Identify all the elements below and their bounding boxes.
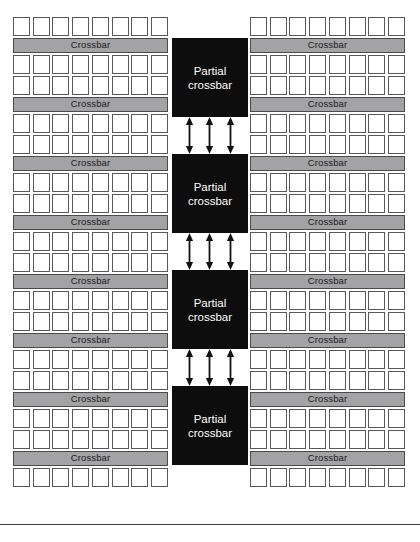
- processing-element[interactable]: [52, 232, 69, 251]
- processing-element[interactable]: [72, 291, 89, 310]
- processing-element[interactable]: [368, 468, 385, 487]
- processing-element[interactable]: [92, 430, 109, 449]
- processing-element[interactable]: [13, 194, 30, 213]
- processing-element[interactable]: [270, 312, 287, 331]
- processing-element[interactable]: [13, 114, 30, 133]
- processing-element[interactable]: [112, 468, 129, 487]
- processing-element[interactable]: [33, 76, 50, 95]
- processing-element[interactable]: [33, 232, 50, 251]
- processing-element[interactable]: [131, 409, 148, 428]
- processing-element[interactable]: [349, 291, 366, 310]
- processing-element[interactable]: [52, 55, 69, 74]
- processing-element[interactable]: [33, 194, 50, 213]
- processing-element[interactable]: [388, 194, 405, 213]
- processing-element[interactable]: [250, 253, 267, 272]
- crossbar-bar[interactable]: Crossbar: [250, 97, 405, 112]
- processing-element[interactable]: [112, 17, 129, 36]
- processing-element[interactable]: [151, 55, 168, 74]
- processing-element[interactable]: [13, 430, 30, 449]
- processing-element[interactable]: [52, 468, 69, 487]
- processing-element[interactable]: [72, 409, 89, 428]
- processing-element[interactable]: [388, 350, 405, 369]
- processing-element[interactable]: [131, 135, 148, 154]
- partial-crossbar-block[interactable]: Partialcrossbar: [172, 38, 248, 117]
- processing-element[interactable]: [131, 253, 148, 272]
- processing-element[interactable]: [151, 430, 168, 449]
- processing-element[interactable]: [309, 135, 326, 154]
- processing-element[interactable]: [151, 350, 168, 369]
- processing-element[interactable]: [72, 135, 89, 154]
- processing-element[interactable]: [13, 173, 30, 192]
- processing-element[interactable]: [33, 312, 50, 331]
- processing-element[interactable]: [309, 291, 326, 310]
- processing-element[interactable]: [112, 253, 129, 272]
- processing-element[interactable]: [289, 17, 306, 36]
- processing-element[interactable]: [13, 76, 30, 95]
- processing-element[interactable]: [329, 17, 346, 36]
- processing-element[interactable]: [289, 194, 306, 213]
- processing-element[interactable]: [112, 114, 129, 133]
- processing-element[interactable]: [309, 409, 326, 428]
- processing-element[interactable]: [112, 350, 129, 369]
- processing-element[interactable]: [92, 114, 109, 133]
- crossbar-bar[interactable]: Crossbar: [250, 392, 405, 407]
- processing-element[interactable]: [368, 173, 385, 192]
- processing-element[interactable]: [52, 409, 69, 428]
- processing-element[interactable]: [151, 291, 168, 310]
- processing-element[interactable]: [72, 312, 89, 331]
- processing-element[interactable]: [112, 409, 129, 428]
- processing-element[interactable]: [151, 409, 168, 428]
- processing-element[interactable]: [289, 135, 306, 154]
- processing-element[interactable]: [33, 371, 50, 390]
- processing-element[interactable]: [349, 350, 366, 369]
- processing-element[interactable]: [329, 350, 346, 369]
- processing-element[interactable]: [250, 114, 267, 133]
- processing-element[interactable]: [368, 430, 385, 449]
- processing-element[interactable]: [388, 312, 405, 331]
- processing-element[interactable]: [13, 409, 30, 428]
- processing-element[interactable]: [388, 291, 405, 310]
- processing-element[interactable]: [131, 17, 148, 36]
- processing-element[interactable]: [388, 114, 405, 133]
- processing-element[interactable]: [270, 232, 287, 251]
- processing-element[interactable]: [329, 468, 346, 487]
- processing-element[interactable]: [131, 312, 148, 331]
- processing-element[interactable]: [151, 253, 168, 272]
- processing-element[interactable]: [52, 312, 69, 331]
- processing-element[interactable]: [289, 291, 306, 310]
- processing-element[interactable]: [329, 371, 346, 390]
- processing-element[interactable]: [349, 114, 366, 133]
- processing-element[interactable]: [349, 17, 366, 36]
- processing-element[interactable]: [250, 17, 267, 36]
- processing-element[interactable]: [388, 232, 405, 251]
- processing-element[interactable]: [309, 371, 326, 390]
- processing-element[interactable]: [270, 114, 287, 133]
- processing-element[interactable]: [52, 350, 69, 369]
- processing-element[interactable]: [33, 17, 50, 36]
- processing-element[interactable]: [131, 114, 148, 133]
- processing-element[interactable]: [309, 253, 326, 272]
- processing-element[interactable]: [52, 135, 69, 154]
- processing-element[interactable]: [72, 76, 89, 95]
- crossbar-bar[interactable]: Crossbar: [13, 38, 168, 53]
- processing-element[interactable]: [112, 173, 129, 192]
- processing-element[interactable]: [52, 430, 69, 449]
- processing-element[interactable]: [289, 468, 306, 487]
- processing-element[interactable]: [309, 76, 326, 95]
- processing-element[interactable]: [151, 312, 168, 331]
- processing-element[interactable]: [112, 312, 129, 331]
- processing-element[interactable]: [151, 468, 168, 487]
- crossbar-bar[interactable]: Crossbar: [250, 451, 405, 466]
- processing-element[interactable]: [52, 194, 69, 213]
- processing-element[interactable]: [388, 409, 405, 428]
- processing-element[interactable]: [250, 312, 267, 331]
- processing-element[interactable]: [92, 312, 109, 331]
- processing-element[interactable]: [329, 409, 346, 428]
- processing-element[interactable]: [309, 350, 326, 369]
- processing-element[interactable]: [270, 173, 287, 192]
- processing-element[interactable]: [309, 430, 326, 449]
- processing-element[interactable]: [92, 76, 109, 95]
- processing-element[interactable]: [33, 430, 50, 449]
- processing-element[interactable]: [270, 76, 287, 95]
- processing-element[interactable]: [131, 430, 148, 449]
